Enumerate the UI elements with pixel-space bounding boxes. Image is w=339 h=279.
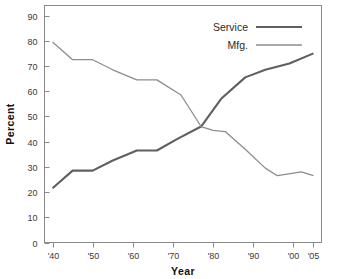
legend-label-mfg: Mfg.	[228, 39, 248, 51]
y-axis-tick-labels: 0102030405060708090	[27, 12, 37, 249]
x-tick-label: '80	[208, 251, 220, 261]
chart-legend: ServiceMfg.	[213, 21, 302, 51]
y-tick-label: 50	[27, 112, 37, 122]
series-line-service	[53, 53, 314, 188]
x-tick-label: '05	[308, 251, 320, 261]
y-tick-label: 0	[32, 239, 37, 249]
y-axis-ticks	[45, 17, 50, 244]
y-tick-label: 80	[27, 37, 37, 47]
y-axis-title: Percent	[4, 103, 16, 144]
x-tick-label: '40	[48, 251, 60, 261]
y-tick-label: 90	[27, 12, 37, 22]
chart-container: 0102030405060708090 '40'50'60'70'80'90'0…	[0, 0, 339, 279]
plot-frame	[45, 6, 322, 243]
x-tick-label: '90	[248, 251, 260, 261]
y-tick-label: 40	[27, 138, 37, 148]
x-tick-label: '60	[128, 251, 140, 261]
x-axis-ticks	[54, 243, 314, 248]
series-lines	[53, 42, 314, 188]
y-tick-label: 10	[27, 213, 37, 223]
x-axis-title: Year	[171, 265, 195, 277]
y-tick-label: 60	[27, 87, 37, 97]
line-chart: 0102030405060708090 '40'50'60'70'80'90'0…	[0, 0, 339, 279]
x-tick-label: '50	[88, 251, 100, 261]
legend-label-service: Service	[213, 21, 248, 33]
x-tick-label: '70	[168, 251, 180, 261]
x-axis-tick-labels: '40'50'60'70'80'90'00'05	[48, 251, 320, 261]
y-tick-label: 30	[27, 163, 37, 173]
y-tick-label: 70	[27, 62, 37, 72]
x-tick-label: '00	[288, 251, 300, 261]
series-line-mfg	[53, 42, 314, 176]
y-tick-label: 20	[27, 188, 37, 198]
